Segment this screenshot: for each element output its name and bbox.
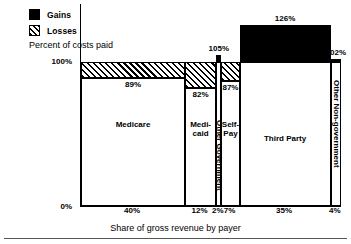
x-axis-title: Share of gross revenue by payer — [0, 223, 351, 233]
bar-category-label: Medicare — [81, 120, 185, 129]
loss-region — [185, 62, 216, 88]
plot-area: 89%Medicare82%Medi- caid105%Other Govern… — [80, 4, 341, 207]
legend-label-losses: Losses — [47, 26, 77, 36]
bar-column-medicaid: 82%Medi- caid — [185, 4, 216, 207]
bar-category-label: Medi- caid — [185, 120, 216, 138]
bar-columns: 89%Medicare82%Medi- caid105%Other Govern… — [81, 4, 341, 207]
bar-category-label: Self- Pay — [221, 120, 239, 138]
bar-column-third-party: 126%Third Party — [240, 4, 331, 207]
bar-category-label: Other Non-government — [331, 80, 341, 168]
bar-value-label: 126% — [240, 14, 331, 23]
bar-value-label: 82% — [185, 90, 216, 99]
bar-column-self-pay: 87%Self- Pay — [221, 4, 239, 207]
loss-region — [81, 62, 185, 78]
gains-swatch-icon — [29, 9, 40, 20]
bar-value-label: 89% — [81, 80, 185, 89]
bar-column-other-non-government: 102%Other Non-government — [331, 4, 341, 207]
chart-root: Gains Losses Percent of costs paid 100% … — [0, 0, 351, 244]
bar-body — [185, 88, 216, 206]
bar-category-label: Third Party — [240, 134, 331, 143]
y-axis-label-top: 100% — [32, 57, 72, 66]
bar-body — [81, 78, 185, 206]
bar-value-label: 87% — [221, 83, 239, 92]
reference-line-100 — [81, 62, 341, 63]
bar-body — [221, 81, 239, 206]
bar-column-medicare: 89%Medicare — [81, 4, 185, 207]
y-axis-label-bottom: 0% — [32, 202, 72, 211]
bar-value-label: 102% — [315, 48, 351, 57]
loss-region — [221, 62, 239, 81]
bottom-rule — [4, 238, 347, 239]
legend-label-gains: Gains — [47, 10, 71, 20]
x-tick-label: 4% — [318, 206, 351, 215]
losses-swatch-icon — [29, 25, 40, 36]
